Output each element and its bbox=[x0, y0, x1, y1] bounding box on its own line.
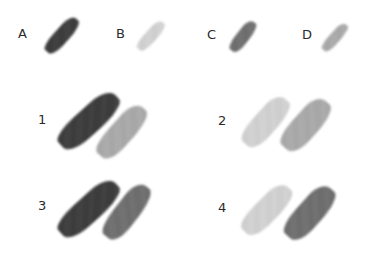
brush-stroke-c bbox=[227, 18, 259, 54]
swatch-label-d: D bbox=[302, 28, 312, 41]
swatch-label-a: A bbox=[18, 27, 27, 40]
brush-stroke-d bbox=[320, 21, 351, 54]
swatch-label-c: C bbox=[207, 28, 216, 41]
brush-stroke-b bbox=[134, 19, 167, 54]
swatch-label-b: B bbox=[116, 27, 125, 40]
pair-label-4: 4 bbox=[218, 201, 226, 214]
pair-label-3: 3 bbox=[38, 199, 46, 212]
brush-stroke-a bbox=[42, 14, 83, 57]
pair-label-1: 1 bbox=[38, 113, 46, 126]
pair-label-2: 2 bbox=[218, 114, 226, 127]
